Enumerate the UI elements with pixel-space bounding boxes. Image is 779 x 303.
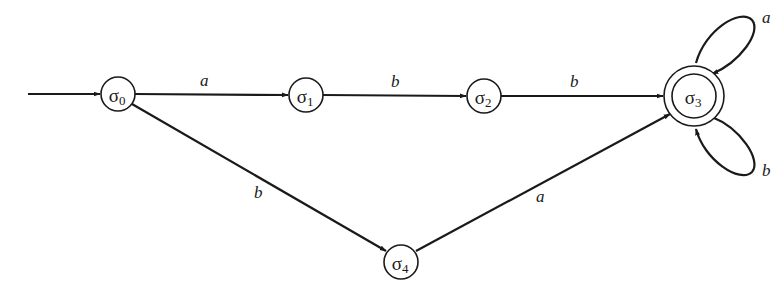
edge-label-s0-s4: b [254, 184, 263, 201]
edge-s4-s3 [416, 114, 670, 251]
edge-label-s3-loop-b: b [762, 162, 771, 179]
state-s4-label: σ4 [392, 254, 409, 275]
edge-label-s0-s1: a [200, 72, 209, 89]
edge-label-s3-loop-a: a [762, 9, 771, 26]
edge-label-s2-s3: b [570, 73, 579, 90]
state-symbol: σ [392, 253, 402, 274]
state-symbol: σ [297, 86, 307, 107]
state-s0-label: σ0 [109, 86, 126, 107]
state-index: 2 [485, 95, 492, 110]
edge-s1-s2 [323, 95, 466, 96]
loop-s3-a [696, 17, 754, 74]
state-s2-label: σ2 [475, 88, 492, 109]
edge-s0-s1 [135, 94, 288, 95]
loop-s3-b [696, 117, 754, 175]
edge-label-s1-s2: b [391, 73, 400, 90]
state-symbol: σ [109, 85, 119, 106]
state-index: 0 [119, 93, 126, 108]
state-s1-label: σ1 [297, 87, 314, 108]
state-index: 3 [695, 95, 702, 110]
state-symbol: σ [475, 87, 485, 108]
state-index: 1 [307, 94, 314, 109]
state-symbol: σ [685, 87, 695, 108]
edge-s0-s4 [132, 104, 386, 251]
diagram-graphics [0, 0, 779, 303]
state-s3-label: σ3 [685, 88, 702, 109]
state-index: 4 [402, 261, 409, 276]
edge-label-s4-s3: a [536, 188, 545, 205]
fsa-diagram: σ0 σ1 σ2 σ3 σ4 a b b b a a b [0, 0, 779, 303]
